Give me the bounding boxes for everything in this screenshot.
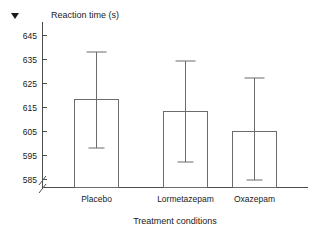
x-tick-label-oxazepam: Oxazepam xyxy=(234,194,275,204)
y-tick-label-645: 645 xyxy=(23,31,37,41)
y-tick-label-595: 595 xyxy=(23,151,37,161)
triangle-down-icon xyxy=(11,13,19,19)
x-tick-label-placebo: Placebo xyxy=(81,194,112,204)
y-tick-label-625: 625 xyxy=(23,79,37,89)
y-tick-label-635: 635 xyxy=(23,55,37,65)
y-tick-label-615: 615 xyxy=(23,103,37,113)
x-axis-title: Treatment conditions xyxy=(133,216,217,226)
x-tick-label-lormetazepam: Lormetazepam xyxy=(157,194,214,204)
y-tick-label-605: 605 xyxy=(23,127,37,137)
chart-canvas: 645 635 625 615 605 595 585 Reaction tim… xyxy=(0,0,322,231)
y-axis-title: Reaction time (s) xyxy=(51,10,119,20)
y-tick-label-585: 585 xyxy=(23,175,37,185)
reaction-time-bar-chart: 645 635 625 615 605 595 585 Reaction tim… xyxy=(0,0,322,231)
